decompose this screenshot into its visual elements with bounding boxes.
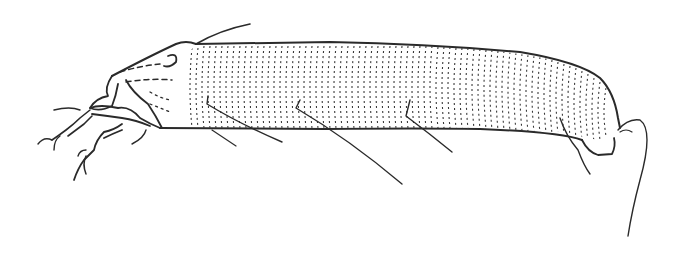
setae	[207, 96, 590, 184]
legs	[38, 106, 160, 180]
prodorsal-shield	[90, 24, 250, 128]
body-outline	[160, 42, 647, 236]
mite-drawing	[0, 0, 693, 258]
mite-illustration	[0, 0, 693, 258]
